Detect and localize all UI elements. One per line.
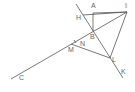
label-b: B [90, 33, 95, 40]
segment-a-i [93, 12, 127, 13]
label-m: M [68, 46, 74, 53]
label-a: A [91, 2, 96, 9]
label-c: C [19, 74, 24, 81]
label-n: N [80, 40, 85, 47]
label-l: L [112, 56, 116, 63]
label-k: K [121, 68, 126, 75]
geometry-diagram: A I H B N M L K C [0, 0, 135, 92]
label-h: H [76, 14, 81, 21]
segment-i-l [110, 12, 127, 58]
label-i: I [125, 2, 127, 9]
segment-m-l [71, 44, 110, 58]
